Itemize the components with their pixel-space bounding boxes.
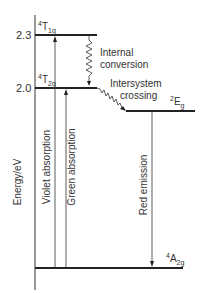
violet-absorption-arrow xyxy=(53,36,57,268)
red-emission-arrow xyxy=(150,111,154,267)
intersystem-crossing-label: Intersystem xyxy=(110,78,162,89)
internal-conversion-label: Internal xyxy=(100,47,133,58)
violet-absorption-label: Violet absorption xyxy=(41,130,52,204)
green-absorption-label: Green absorption xyxy=(66,128,77,205)
internal-conversion-zigzag xyxy=(86,36,92,86)
tick-2-0: 2.0 xyxy=(16,82,31,94)
level-t2g-label: 4T2g xyxy=(38,73,56,88)
level-t1g-label: 4T1g xyxy=(38,20,56,35)
red-emission-label: Red emission xyxy=(138,155,149,216)
tick-2-3: 2.3 xyxy=(16,29,31,41)
y-axis-label: Energy/eV xyxy=(12,158,23,205)
internal-conversion-label-2: conversion xyxy=(100,59,148,70)
level-a2g-label: 4A2g xyxy=(166,252,184,267)
level-eg-label: 2Eg xyxy=(170,95,185,110)
energy-level-diagram: 2.3 2.0 Energy/eV 4T1g 4T2g 2Eg 4A2g Vio… xyxy=(0,0,201,293)
intersystem-crossing-label-2: crossing xyxy=(120,90,157,101)
